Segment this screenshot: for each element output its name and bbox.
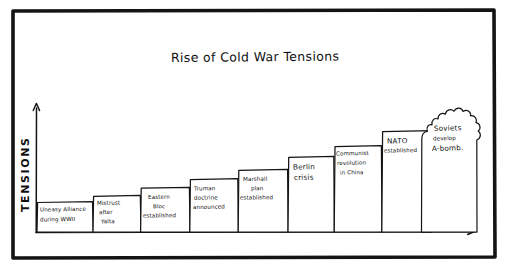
bar-label-line-0: Communist [336, 150, 370, 157]
bar-label-line-2: announced [193, 203, 225, 210]
bar-label-line-0: Soviets [434, 123, 462, 133]
bar-soviets-develop-a-bomb: Soviets develop A-bomb. [422, 108, 481, 232]
bar-label-line-0: Berlin [293, 162, 315, 171]
bar-label-line-1: crisis [294, 173, 314, 182]
bar-label-line-0: NATO [387, 136, 408, 145]
y-axis-label: TENSIONS [19, 136, 32, 212]
bar-truman-doctrine-announced: Truman doctrine announced [190, 179, 239, 233]
bar-marshall-plan-established: Marshall plan established [238, 169, 288, 232]
bar-label-line-2: A-bomb. [432, 143, 464, 153]
chart-figure: Rise of Cold War Tensions TENSIONS Uneas… [0, 0, 506, 268]
bar-label-line-1: Bloc [153, 203, 165, 209]
bar-label-line-2: established [240, 194, 274, 200]
bar-label-line-1: doctrine [194, 194, 218, 200]
bar-label-line-0: Truman [193, 185, 216, 191]
bar-label-line-2: Yalta [100, 218, 115, 224]
cold-war-tensions-bar-chart: Rise of Cold War Tensions TENSIONS Uneas… [0, 0, 506, 268]
bar-label-line-1: after [99, 209, 113, 215]
bar-berlin-crisis: Berlin crisis [288, 156, 334, 232]
bar-communist-revolution-in-china: Communist revolution in China [334, 146, 382, 233]
chart-title: Rise of Cold War Tensions [171, 49, 340, 65]
bar-label-line-2: established [143, 212, 177, 218]
bar-label-line-2: in China [340, 169, 364, 175]
bar-mistrust-after-yalta: Mistrust after Yalta [93, 195, 141, 232]
bar-uneasy-alliance-during-wwii: Uneasy Alliance during WWII [37, 202, 93, 233]
bar-label-line-0: Mistrust [97, 200, 121, 206]
bar-label-line-0: Marshall [243, 176, 268, 182]
bar-label-line-0: Eastern [148, 194, 170, 200]
bar-eastern-bloc-established: Eastern Bloc established [141, 187, 190, 232]
bar-label-line-1: established [384, 147, 418, 153]
bar-label-line-1: revolution [337, 159, 367, 166]
